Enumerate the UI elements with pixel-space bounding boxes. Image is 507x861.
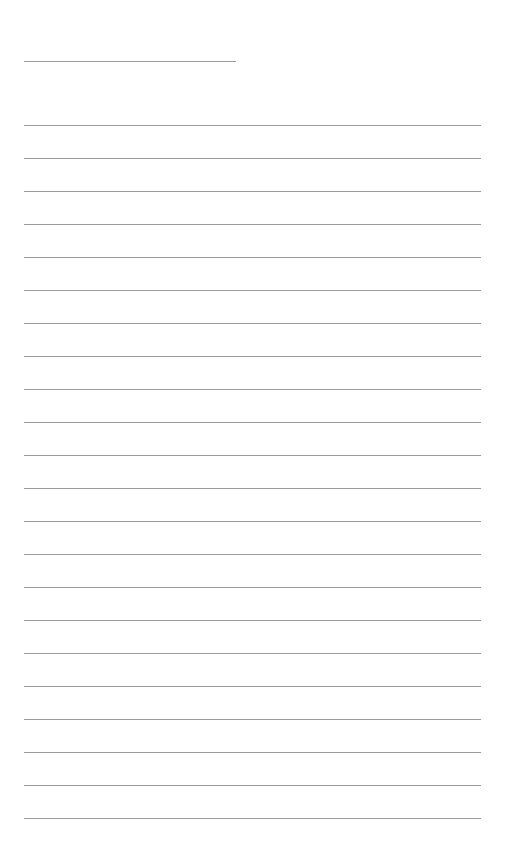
ruled-line (24, 224, 481, 225)
ruled-line (24, 158, 481, 159)
ruled-line (24, 290, 481, 291)
ruled-line (24, 521, 481, 522)
ruled-line (24, 455, 481, 456)
title-line (24, 61, 236, 62)
ruled-line (24, 356, 481, 357)
ruled-line (24, 125, 481, 126)
ruled-line (24, 191, 481, 192)
ruled-line (24, 587, 481, 588)
ruled-line (24, 488, 481, 489)
ruled-line (24, 752, 481, 753)
ruled-line (24, 785, 481, 786)
ruled-line (24, 257, 481, 258)
ruled-line (24, 323, 481, 324)
ruled-line (24, 620, 481, 621)
ruled-line (24, 719, 481, 720)
ruled-line (24, 422, 481, 423)
ruled-line (24, 686, 481, 687)
ruled-line (24, 554, 481, 555)
ruled-line (24, 389, 481, 390)
ruled-line (24, 818, 481, 819)
ruled-line (24, 653, 481, 654)
